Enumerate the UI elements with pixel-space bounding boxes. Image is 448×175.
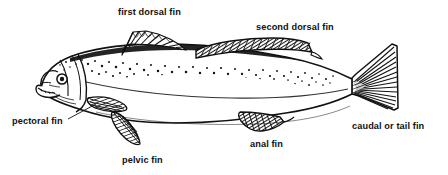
label-second-dorsal-fin: second dorsal fin (256, 23, 334, 32)
label-caudal-fin: caudal or tail fin (352, 122, 424, 131)
label-pectoral-fin: pectoral fin (12, 117, 63, 126)
fish-anatomy-diagram: first dorsal fin second dorsal fin pecto… (0, 0, 448, 175)
fish-illustration (0, 0, 448, 175)
label-anal-fin: anal fin (250, 140, 283, 149)
label-pelvic-fin: pelvic fin (122, 156, 163, 165)
fish-eye (57, 74, 67, 84)
label-first-dorsal-fin: first dorsal fin (118, 8, 181, 17)
